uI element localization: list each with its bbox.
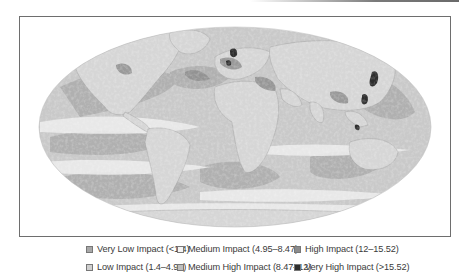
legend-item-very-high: Very High Impact (>15.52)	[294, 260, 409, 274]
legend-swatch-very-low	[86, 246, 93, 253]
legend-label: Very Low Impact (<1.4)	[97, 244, 190, 254]
legend-item-medium: Medium Impact (4.95–8.47)	[177, 242, 298, 256]
legend-swatch-medium-high	[177, 264, 184, 271]
legend-swatch-medium	[177, 246, 184, 253]
legend-item-very-low: Very Low Impact (<1.4)	[86, 242, 190, 256]
legend-label: Low Impact (1.4–4.95)	[97, 262, 186, 272]
legend-swatch-high	[294, 246, 301, 253]
legend-item-medium-high: Medium High Impact (8.47–12)	[177, 260, 311, 274]
legend-swatch-very-high	[294, 264, 301, 271]
map-frame	[19, 16, 451, 237]
legend-label: High Impact (12–15.52)	[305, 244, 399, 254]
top-rule	[250, 0, 459, 2]
legend-item-high: High Impact (12–15.52)	[294, 242, 399, 256]
legend-item-low: Low Impact (1.4–4.95)	[86, 260, 186, 274]
legend-swatch-low	[86, 264, 93, 271]
legend-label: Medium High Impact (8.47–12)	[188, 262, 311, 272]
legend: Very Low Impact (<1.4) Low Impact (1.4–4…	[86, 242, 416, 276]
legend-label: Very High Impact (>15.52)	[305, 262, 409, 272]
world-map	[20, 17, 451, 237]
legend-label: Medium Impact (4.95–8.47)	[188, 244, 298, 254]
